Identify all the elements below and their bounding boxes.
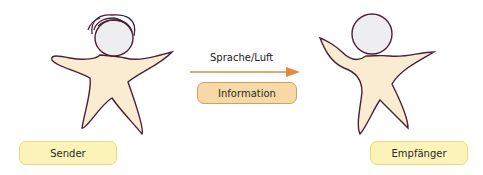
channel-label: Sprache/Luft [210, 52, 273, 63]
sender-label: Sender [50, 148, 85, 159]
sender-box: Sender [19, 141, 117, 165]
receiver-box: Empfänger [370, 141, 468, 165]
sender-head [95, 20, 133, 56]
receiver-head [352, 14, 392, 54]
receiver-label: Empfänger [391, 148, 446, 159]
sender-body [52, 52, 172, 134]
sender-figure [0, 0, 200, 140]
message-box: Information [197, 82, 297, 104]
receiver-figure [300, 0, 483, 140]
channel-arrow [190, 66, 300, 78]
message-label: Information [218, 88, 276, 99]
